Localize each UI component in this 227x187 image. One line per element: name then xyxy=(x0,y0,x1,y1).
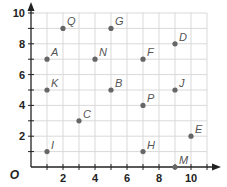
y-tick-label: 8 xyxy=(19,38,25,50)
y-tick-label: 4 xyxy=(19,99,26,111)
point-marker xyxy=(76,118,81,123)
point-label: N xyxy=(99,46,107,58)
point-label: M xyxy=(179,154,189,166)
point-label: G xyxy=(115,15,124,27)
data-points: QGDANFKBJPCEIHM xyxy=(44,15,203,169)
point-marker xyxy=(172,164,177,169)
x-axis-arrow-icon xyxy=(212,164,221,171)
x-tick-label: 8 xyxy=(156,172,162,184)
point-label: B xyxy=(115,77,122,89)
point-marker xyxy=(92,57,97,62)
point-marker xyxy=(140,103,145,108)
point-label: P xyxy=(147,92,155,104)
point-label: E xyxy=(195,123,203,135)
point-label: K xyxy=(51,77,59,89)
x-tick-label: 10 xyxy=(185,172,197,184)
y-tick-label: 10 xyxy=(13,7,25,19)
point-label: H xyxy=(147,139,155,151)
x-tick-label: 4 xyxy=(92,172,99,184)
point-marker xyxy=(44,57,49,62)
y-tick-label: 2 xyxy=(19,130,25,142)
point-marker xyxy=(172,87,177,92)
point-marker xyxy=(172,41,177,46)
point-label: C xyxy=(83,108,91,120)
point-marker xyxy=(44,149,49,154)
point-marker xyxy=(108,26,113,31)
y-tick-label: 6 xyxy=(19,69,25,81)
point-marker xyxy=(44,87,49,92)
y-axis-arrow-icon xyxy=(28,2,35,11)
point-label: F xyxy=(147,46,155,58)
point-marker xyxy=(188,134,193,139)
axis-ticks: 246810246810O xyxy=(10,7,207,184)
point-marker xyxy=(60,26,65,31)
x-tick-label: 2 xyxy=(60,172,66,184)
point-label: Q xyxy=(67,15,76,27)
point-label: D xyxy=(179,31,187,43)
origin-label: O xyxy=(10,168,20,182)
point-label: I xyxy=(51,139,54,151)
point-marker xyxy=(140,57,145,62)
point-marker xyxy=(108,87,113,92)
point-label: A xyxy=(50,46,58,58)
coordinate-plane: 246810246810O QGDANFKBJPCEIHM xyxy=(0,0,227,187)
point-marker xyxy=(140,149,145,154)
x-tick-label: 6 xyxy=(124,172,130,184)
point-label: J xyxy=(178,77,185,89)
